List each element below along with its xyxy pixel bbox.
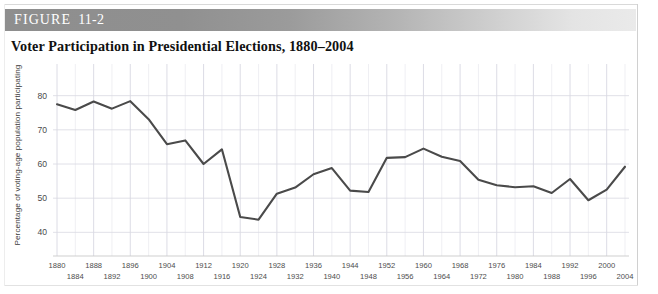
x-axis-tick-label: 1896 bbox=[122, 261, 139, 270]
x-axis-tick-label: 1936 bbox=[305, 261, 322, 270]
chart-region: Percentage of voting-age population part… bbox=[0, 60, 658, 292]
line-chart-plot: 4050607080 18801884188818921896190019041… bbox=[0, 60, 658, 292]
x-axis-tick-label: 1968 bbox=[452, 261, 469, 270]
x-axis-tick-label: 1888 bbox=[85, 261, 102, 270]
x-axis-tick-label: 1996 bbox=[580, 272, 597, 281]
x-axis-tick-label: 1972 bbox=[470, 272, 487, 281]
y-axis-tick-label: 40 bbox=[37, 227, 47, 237]
figure-header-label: FIGURE11-2 bbox=[14, 11, 104, 29]
x-axis-tick-label: 1908 bbox=[177, 272, 194, 281]
y-axis-tick-label: 50 bbox=[37, 193, 47, 203]
y-axis-tick-label: 70 bbox=[37, 125, 47, 135]
figure-number: 11-2 bbox=[78, 12, 104, 27]
figure-card: FIGURE11-2 Voter Participation in Presid… bbox=[0, 0, 658, 294]
x-axis-tick-label: 1900 bbox=[140, 272, 157, 281]
x-axis-tick-label: 1964 bbox=[433, 272, 450, 281]
y-axis-tick-label: 60 bbox=[37, 159, 47, 169]
grid-horizontal-lines bbox=[53, 96, 629, 256]
x-axis-tick-label: 1984 bbox=[525, 261, 542, 270]
x-axis-tick-label: 1916 bbox=[213, 272, 230, 281]
x-axis-tick-label: 1988 bbox=[543, 272, 560, 281]
x-axis-tick-label: 1928 bbox=[268, 261, 285, 270]
x-axis-tick-label: 1880 bbox=[49, 261, 66, 270]
x-axis-tick-label: 1952 bbox=[378, 261, 395, 270]
figure-title: Voter Participation in Presidential Elec… bbox=[11, 38, 354, 55]
x-axis-tick-label: 1912 bbox=[195, 261, 212, 270]
x-axis-tick-label: 2000 bbox=[598, 261, 615, 270]
x-axis-tick-label: 1932 bbox=[287, 272, 304, 281]
y-axis-tick-labels: 4050607080 bbox=[37, 91, 47, 238]
x-axis-tick-label: 1980 bbox=[507, 272, 524, 281]
x-axis-tick-label: 1944 bbox=[342, 261, 359, 270]
x-axis-tick-label: 1976 bbox=[488, 261, 505, 270]
x-axis-tick-label: 1960 bbox=[415, 261, 432, 270]
x-axis-tick-label: 1904 bbox=[158, 261, 175, 270]
x-axis-tick-label: 1924 bbox=[250, 272, 267, 281]
x-axis-tick-label: 1992 bbox=[562, 261, 579, 270]
x-axis-tick-label: 1956 bbox=[397, 272, 414, 281]
x-axis-tick-labels: 1880188418881892189619001904190819121916… bbox=[49, 261, 634, 281]
figure-header-word: FIGURE bbox=[14, 12, 71, 27]
voter-participation-line bbox=[57, 101, 625, 220]
x-axis-tick-label: 1948 bbox=[360, 272, 377, 281]
x-axis-tick-label: 1920 bbox=[232, 261, 249, 270]
x-axis-tick-label: 1892 bbox=[104, 272, 121, 281]
x-axis-tick-label: 1940 bbox=[323, 272, 340, 281]
figure-frame-top-border bbox=[4, 4, 638, 5]
x-axis-tick-label: 2004 bbox=[617, 272, 634, 281]
x-axis-tick-label: 1884 bbox=[67, 272, 84, 281]
y-axis-tick-label: 80 bbox=[37, 91, 47, 101]
